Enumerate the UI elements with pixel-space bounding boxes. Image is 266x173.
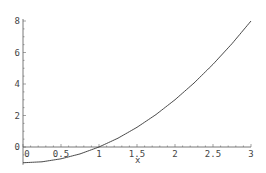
y-tick-label: 8 (15, 16, 20, 26)
y-tick-label: 0 (15, 142, 20, 152)
x-axis-label: x (135, 155, 141, 165)
y-tick-label: 2 (15, 111, 20, 121)
x-tick-label: 1 (96, 149, 101, 159)
y-tick-label: 6 (15, 48, 20, 58)
axes (23, 19, 251, 165)
x-tick-label: 3 (248, 149, 253, 159)
axis-ticks (23, 21, 251, 155)
x-tick-label: 0 (24, 149, 29, 159)
x-tick-label: 2.5 (205, 149, 221, 159)
tick-labels: 00.511.522.5302468 (15, 16, 254, 159)
x-tick-label: 2 (172, 149, 177, 159)
y-tick-label: 4 (15, 79, 20, 89)
line-chart: 00.511.522.5302468 x (0, 0, 266, 173)
data-curve (23, 21, 251, 163)
